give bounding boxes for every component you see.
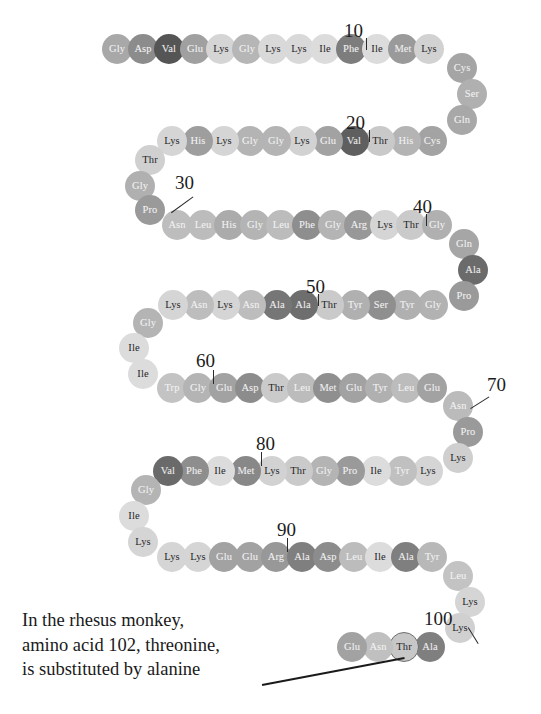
residue-22-lys: Lys	[287, 126, 317, 156]
residue-82-phe: Phe	[179, 456, 209, 486]
position-tick-80	[261, 452, 262, 466]
position-label-70: 70	[487, 374, 506, 396]
residue-81-ile: Ile	[205, 456, 235, 486]
residue-86-lys: Lys	[128, 527, 158, 557]
residue-45-gly: Gly	[418, 290, 448, 320]
position-tick-10	[366, 38, 367, 50]
position-tick-40	[426, 214, 427, 226]
residue-13-lys: Lys	[414, 34, 444, 64]
residue-21-glu: Glu	[313, 126, 343, 156]
position-tick-50	[318, 294, 319, 306]
position-label-40: 40	[413, 196, 432, 218]
residue-44-pro: Pro	[449, 281, 479, 311]
residue-97-tyr: Tyr	[417, 542, 447, 572]
residue-69-glu: Glu	[417, 373, 447, 403]
residue-55-lys: Lys	[158, 290, 188, 320]
caption-line-2: amino acid 102, threonine,	[22, 633, 352, 658]
residue-17-cys: Cys	[417, 126, 447, 156]
caption-line-3: is substituted by alanine	[22, 657, 352, 682]
residue-73-lys: Lys	[413, 456, 443, 486]
position-label-60: 60	[196, 350, 215, 372]
residue-52-asn: Asn	[236, 290, 266, 320]
position-label-10: 10	[344, 20, 363, 42]
position-label-80: 80	[256, 433, 275, 455]
residue-48-tyr: Tyr	[340, 290, 370, 320]
residue-18-his: His	[391, 126, 421, 156]
position-tick-90	[287, 538, 288, 552]
residue-74-tyr: Tyr	[387, 456, 417, 486]
residue-16-gln: Gln	[447, 105, 477, 135]
residue-77-gly: Gly	[309, 456, 339, 486]
sequence-diagram-canvas: GlyAspValGluLysGlyLysLysIlePheIleMetLysC…	[0, 0, 541, 714]
residue-30-pro: Pro	[135, 195, 165, 225]
position-label-50: 50	[306, 276, 325, 298]
residue-23-gly: Gly	[261, 126, 291, 156]
residue-103-asn: Asn	[363, 632, 393, 662]
residue-54-asn: Asn	[184, 290, 214, 320]
residue-72-lys: Lys	[443, 443, 473, 473]
residue-78-thr: Thr	[283, 456, 313, 486]
residue-24-gly: Gly	[235, 126, 265, 156]
caption-line-1: In the rhesus monkey,	[22, 608, 352, 633]
residue-25-lys: Lys	[209, 126, 239, 156]
position-label-30: 30	[175, 172, 194, 194]
position-tick-60	[213, 370, 214, 384]
residue-101-ala: Ala	[415, 632, 445, 662]
residue-51-ala: Ala	[262, 290, 292, 320]
residue-53-lys: Lys	[210, 290, 240, 320]
position-label-20: 20	[346, 112, 365, 134]
residue-76-pro: Pro	[335, 456, 365, 486]
residue-46-tyr: Tyr	[392, 290, 422, 320]
residue-47-ser: Ser	[366, 290, 396, 320]
position-tick-20	[369, 130, 370, 142]
position-label-100: 100	[424, 608, 453, 630]
residue-26-his: His	[183, 126, 213, 156]
figure-caption: In the rhesus monkey, amino acid 102, th…	[22, 608, 352, 682]
residue-58-ile: Ile	[128, 359, 158, 389]
residue-75-ile: Ile	[361, 456, 391, 486]
residue-80-met: Met	[231, 456, 261, 486]
